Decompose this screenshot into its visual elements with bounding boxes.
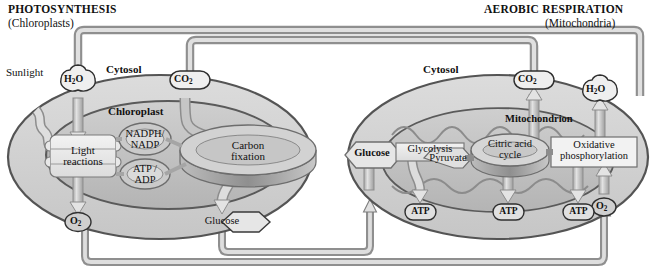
o2-badge-left: O2 [70,216,81,228]
photosynthesis-subtitle: (Chloroplasts) [8,17,74,29]
glucose-badge-right: Glucose [348,148,396,159]
h2o-badge-left: H2O [64,74,83,86]
carbon-fixation-label: Carbonfixation [218,140,278,162]
pyruvate-label: Pyruvate [424,153,472,164]
co2-badge-right: CO2 [518,74,537,86]
atp-badge-citric: ATP [493,207,524,217]
aerobic-respiration-subtitle: (Mitochondria) [545,17,615,29]
atp-adp-label: ATP /ADP [122,164,168,185]
sunlight-label: Sunlight [6,66,43,78]
photosynthesis-title: PHOTOSYNTHESIS [8,3,117,15]
right-cytosol-label: Cytosol [423,64,458,75]
glucose-badge-left: Glucose [200,216,244,227]
diagram-canvas: PHOTOSYNTHESIS (Chloroplasts) AEROBIC RE… [0,0,661,271]
oxphos-label: Oxidativephosphorylation [551,140,637,161]
light-reactions-label: Lightreactions [52,145,114,167]
atp-badge-glycolysis: ATP [405,207,436,217]
aerobic-respiration-title: AEROBIC RESPIRATION [484,3,623,15]
sunlight-glow [4,58,56,102]
h2o-badge-right: H2O [586,84,605,96]
o2-badge-right: O2 [596,201,607,213]
chloroplast-label: Chloroplast [108,106,163,117]
citric-acid-cycle-label: Citric acidcycle [480,139,540,160]
co2-badge-left: CO2 [174,74,193,86]
atp-badge-oxphos: ATP [563,207,594,217]
diagram-graphics [0,0,661,271]
nadph-nadp-label: NADPH/NADP [116,129,174,150]
left-cytosol-label: Cytosol [106,64,141,75]
mitochondrion-label: Mitochondrion [505,114,573,125]
